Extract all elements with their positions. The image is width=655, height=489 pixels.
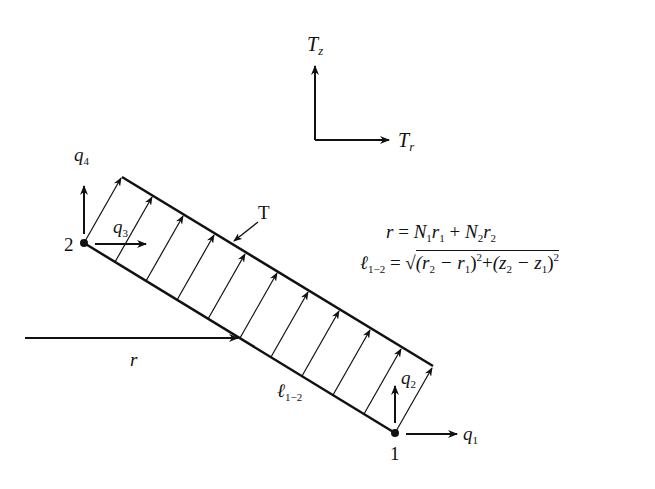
traction-arrow	[240, 273, 277, 338]
traction-leader-arrow	[234, 222, 258, 241]
q1-label: q1	[463, 424, 478, 446]
traction-arrow	[302, 311, 339, 376]
tz-sub: z	[318, 43, 323, 58]
tz-main: T	[307, 33, 318, 55]
eq1-r2: r	[483, 221, 490, 242]
eq2-equals: =	[390, 252, 401, 273]
radius-equation: r = N1r1 + N2r2	[386, 222, 496, 244]
t1-open: (r	[416, 252, 430, 273]
radicand: (r2 − r1)2+(z2 − z1)2	[416, 250, 559, 273]
eq1-n1: N	[414, 221, 427, 242]
eq2-lhs: ℓ	[360, 252, 368, 273]
length-label: ℓ1−2	[277, 381, 302, 403]
t2-pow: 2	[554, 251, 560, 263]
node-1-dot	[391, 429, 399, 437]
node-1-label: 1	[390, 444, 400, 463]
q2-sub: 2	[411, 378, 417, 390]
traction-arrow	[177, 235, 214, 300]
q4-label: q4	[74, 145, 89, 167]
node-2-dot	[80, 239, 88, 247]
eq1-n2: N	[465, 221, 478, 242]
sqrt-icon: √	[405, 252, 415, 273]
node-2-label: 2	[64, 235, 74, 254]
q1-sub: 1	[473, 434, 479, 446]
traction-arrow	[333, 330, 370, 395]
diagram-canvas	[0, 0, 655, 489]
eq2-lhs-sub: 1−2	[368, 263, 385, 275]
tr-main: T	[398, 129, 409, 151]
radius-label: r	[130, 350, 137, 369]
tr-label: Tr	[398, 130, 414, 153]
eq1-r2-sub: 2	[491, 232, 497, 244]
eq1-plus: +	[445, 221, 465, 242]
eq2-plus: +	[482, 252, 493, 273]
t2-minus: − z	[512, 252, 542, 273]
q2-main: q	[401, 367, 411, 388]
traction-axes	[315, 66, 389, 140]
q2-label: q2	[401, 368, 416, 390]
tr-sub: r	[409, 139, 414, 154]
eq1-lhs: r	[386, 221, 393, 242]
q4-main: q	[74, 144, 84, 165]
traction-arrow	[271, 292, 308, 357]
tz-label: Tz	[307, 34, 323, 57]
q1-main: q	[463, 423, 473, 444]
traction-label: T	[258, 203, 270, 222]
length-main: ℓ	[277, 380, 285, 401]
node-1-dofs	[391, 386, 457, 437]
traction-arrow	[208, 254, 245, 319]
traction-arrow	[146, 216, 183, 281]
eq1-equals: =	[398, 221, 409, 242]
q4-sub: 4	[84, 155, 90, 167]
q3-sub: 3	[123, 227, 129, 239]
length-sub: 1−2	[285, 391, 302, 403]
length-equation: ℓ1−2 = √(r2 − r1)2+(z2 − z1)2	[360, 252, 559, 275]
q3-main: q	[113, 216, 123, 237]
t1-minus: − r	[435, 252, 465, 273]
q3-label: q3	[113, 217, 128, 239]
t2-open: (z	[493, 252, 507, 273]
